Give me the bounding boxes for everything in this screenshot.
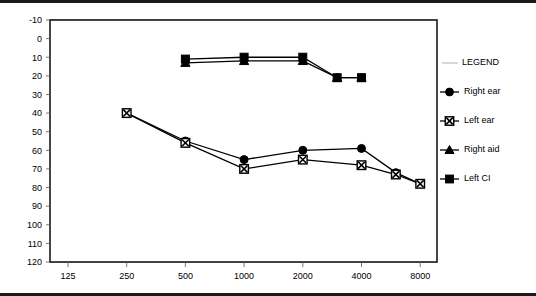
x-axis-tick-label: 125 (60, 271, 75, 281)
marker-x-in-square (299, 155, 308, 164)
marker-filled-square (299, 53, 307, 61)
y-axis-tick-label: 0 (37, 34, 42, 44)
legend-item-left-ear: Left ear (440, 115, 495, 125)
marker-x-in-square (357, 161, 366, 170)
marker-x-in-square (240, 165, 249, 174)
y-axis-tick-label: 80 (32, 183, 42, 193)
legend-item-label: Right aid (464, 144, 500, 154)
x-axis-tick-label: 500 (178, 271, 193, 281)
y-axis-tick-label: 30 (32, 90, 42, 100)
marker-filled-circle (446, 88, 454, 96)
marker-x-in-square (392, 170, 401, 179)
y-axis-tick-label: 20 (32, 71, 42, 81)
y-axis-tick-labels: -100102030405060708090100110120 (27, 15, 42, 267)
marker-filled-circle (240, 156, 248, 164)
marker-filled-circle (299, 146, 307, 154)
x-axis-tick-label: 2000 (293, 271, 313, 281)
legend-item-right-ear: Right ear (440, 86, 501, 96)
legend-item-label: Left ear (464, 115, 495, 125)
chart-legend: LEGENDRight earLeft earRight aidLeft CI (440, 57, 501, 183)
y-axis-tick-label: 100 (27, 220, 42, 230)
audiogram-figure: -100102030405060708090100110120 12525050… (0, 0, 536, 296)
x-axis-tick-label: 1000 (234, 271, 254, 281)
marker-x-in-square (445, 117, 453, 125)
marker-filled-square (240, 53, 248, 61)
x-axis-tick-labels: 1252505001000200040008000 (60, 271, 430, 281)
y-axis-tick-label: 120 (27, 257, 42, 267)
x-axis-tick-label: 250 (119, 271, 134, 281)
y-axis-tick-label: 110 (28, 239, 42, 249)
y-axis-tick-label: 60 (32, 146, 42, 156)
marker-filled-square (446, 175, 454, 183)
marker-x-in-square (122, 109, 131, 118)
marker-x-in-square (416, 180, 425, 189)
legend-item-label: Left CI (464, 173, 491, 183)
audiogram-chart: -100102030405060708090100110120 12525050… (0, 0, 536, 296)
marker-filled-square (181, 55, 189, 63)
legend-item-left-ci: Left CI (440, 173, 491, 183)
legend-title: LEGEND (462, 57, 500, 67)
marker-filled-circle (358, 144, 366, 152)
y-axis-tick-label: 90 (32, 201, 42, 211)
legend-item-label: Right ear (464, 86, 501, 96)
y-axis-tick-label: 40 (32, 108, 42, 118)
marker-filled-square (358, 74, 366, 82)
x-axis-tick-label: 4000 (351, 271, 371, 281)
marker-x-in-square (181, 139, 190, 148)
legend-item-right-aid: Right aid (440, 144, 500, 154)
y-axis-tick-label: 70 (32, 164, 42, 174)
y-axis-tick-label: 10 (32, 53, 42, 63)
y-axis-tick-label: -10 (29, 15, 42, 25)
x-axis-tick-label: 8000 (410, 271, 430, 281)
y-axis-tick-label: 50 (32, 127, 42, 137)
marker-filled-square (333, 74, 341, 82)
